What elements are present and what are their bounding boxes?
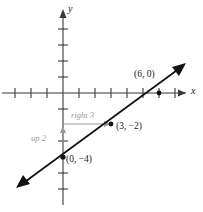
point-label-6-0: (6, 0) bbox=[134, 70, 155, 80]
line-arrowhead-upper-right bbox=[172, 63, 186, 76]
graph-figure: (6, 0) (3, −2) (0, −4) x y right 3 up 2 bbox=[0, 0, 203, 212]
x-axis-arrowhead bbox=[178, 90, 186, 97]
point-label-3-neg2: (3, −2) bbox=[116, 122, 142, 132]
annotation-label-right-3: right 3 bbox=[71, 111, 94, 120]
line-arrowhead-lower-left bbox=[16, 175, 30, 188]
plotted-line-group bbox=[16, 63, 186, 188]
y-axis-label: y bbox=[68, 4, 72, 14]
point-label-0-neg4: (0, −4) bbox=[66, 155, 92, 165]
plotted-line bbox=[22, 68, 180, 184]
y-axis-group bbox=[58, 9, 68, 205]
point-marker-3-neg2 bbox=[109, 122, 114, 127]
point-marker-6-0 bbox=[157, 91, 162, 96]
annotation-label-up-2: up 2 bbox=[31, 134, 46, 143]
x-axis-label: x bbox=[191, 86, 195, 96]
coordinate-plane-svg bbox=[0, 0, 203, 212]
point-marker-0-neg4 bbox=[60, 154, 65, 159]
y-axis-arrowhead bbox=[60, 9, 67, 18]
